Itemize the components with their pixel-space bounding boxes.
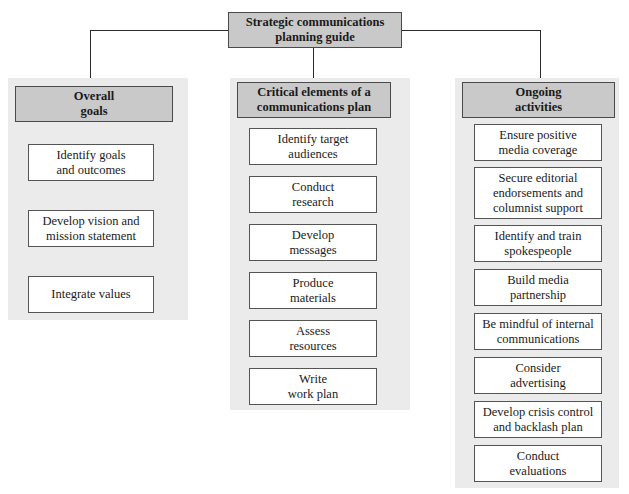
item-identify-goals: Identify goals and outcomes — [28, 144, 154, 181]
connector-vertical-left — [90, 30, 91, 78]
connector-horizontal-left — [90, 30, 228, 31]
header-critical-elements: Critical elements of a communications pl… — [237, 82, 391, 118]
item-identify-audiences: Identify target audiences — [249, 128, 377, 165]
item-identify-spokespeople: Identify and train spokespeople — [474, 225, 602, 262]
item-consider-advertising: Consider advertising — [474, 357, 602, 394]
item-secure-endorsements: Secure editorial endorsements and column… — [474, 167, 602, 219]
connector-vertical-center — [313, 48, 314, 78]
item-ensure-media-coverage: Ensure positive media coverage — [474, 124, 602, 161]
item-conduct-evaluations: Conduct evaluations — [474, 445, 602, 482]
item-produce-materials: Produce materials — [249, 272, 377, 309]
panel-overall-goals: Overall goals Identify goals and outcome… — [8, 78, 188, 320]
header-overall-goals: Overall goals — [15, 86, 173, 122]
header-ongoing-activities: Ongoing activities — [462, 82, 615, 118]
root-node: Strategic communications planning guide — [228, 12, 402, 48]
item-crisis-control: Develop crisis control and backlash plan — [474, 401, 602, 438]
item-build-media-partnership: Build media partnership — [474, 269, 602, 306]
panel-critical-elements: Critical elements of a communications pl… — [230, 78, 410, 410]
connector-vertical-right — [540, 30, 541, 78]
item-conduct-research: Conduct research — [249, 176, 377, 213]
item-develop-vision: Develop vision and mission statement — [28, 210, 154, 247]
item-write-work-plan: Write work plan — [249, 368, 377, 405]
item-assess-resources: Assess resources — [249, 320, 377, 357]
item-internal-communications: Be mindful of internal communications — [474, 313, 602, 350]
panel-ongoing-activities: Ongoing activities Ensure positive media… — [455, 78, 619, 488]
item-integrate-values: Integrate values — [28, 276, 154, 313]
connector-horizontal-right — [402, 30, 540, 31]
item-develop-messages: Develop messages — [249, 224, 377, 261]
